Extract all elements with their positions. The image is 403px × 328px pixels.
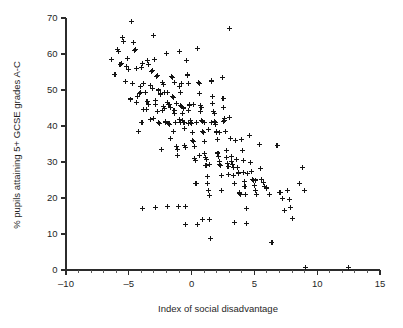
data-point-marker (165, 90, 170, 95)
data-point-marker (210, 94, 215, 99)
data-point-marker (134, 100, 139, 105)
data-point-marker (151, 116, 156, 121)
data-point-marker (177, 49, 182, 54)
data-point-marker (209, 120, 214, 125)
data-point-marker (191, 102, 196, 107)
data-point-marker (282, 208, 287, 213)
data-point-marker (130, 81, 135, 86)
data-point-marker (215, 151, 220, 156)
data-point-marker (242, 184, 247, 189)
y-axis-tick-label: 70 (47, 12, 58, 23)
data-point-marker (132, 48, 137, 53)
data-point-marker (172, 80, 177, 85)
data-point-marker (124, 64, 129, 69)
data-point-marker (244, 206, 249, 211)
data-point-marker (227, 26, 232, 31)
data-point-marker (269, 240, 274, 245)
y-axis-tick-label: 40 (47, 120, 58, 131)
data-point-marker (257, 142, 262, 147)
data-point-marker (109, 57, 114, 62)
data-point-marker (209, 79, 214, 84)
data-point-marker (241, 158, 246, 163)
data-point-marker (236, 170, 241, 175)
x-axis-tick-label: –10 (58, 278, 74, 289)
data-point-marker (252, 183, 257, 188)
data-point-marker (172, 108, 177, 113)
data-point-marker (200, 129, 205, 134)
data-point-marker (164, 51, 169, 56)
data-point-marker (225, 161, 230, 166)
x-axis-tick-label: 5 (252, 278, 257, 289)
data-point-marker (187, 102, 192, 107)
data-point-marker (248, 160, 253, 165)
data-point-marker (233, 138, 238, 143)
data-point-marker (224, 148, 229, 153)
data-point-marker (156, 120, 161, 125)
data-point-marker (139, 120, 144, 125)
data-point-marker (182, 143, 187, 148)
data-point-marker (243, 192, 248, 197)
data-point-marker (220, 75, 225, 80)
x-axis-tick-label: 10 (312, 278, 323, 289)
data-point-marker (202, 139, 207, 144)
data-point-marker (153, 102, 158, 107)
data-point-marker (196, 80, 201, 85)
data-point-marker (226, 164, 231, 169)
data-point-marker (206, 127, 211, 132)
data-point-marker (153, 205, 158, 210)
data-point-marker (224, 155, 229, 160)
data-point-marker (175, 153, 180, 158)
data-point-marker (125, 56, 130, 61)
data-points-group (109, 19, 351, 270)
data-point-marker (212, 119, 217, 124)
data-point-marker (205, 174, 210, 179)
y-axis-tick-label: 30 (47, 156, 58, 167)
data-point-marker (227, 115, 232, 120)
data-point-marker (192, 144, 197, 149)
data-point-marker (302, 188, 307, 193)
data-point-marker (154, 74, 159, 79)
data-point-marker (138, 84, 143, 89)
x-axis-tick-label: 15 (375, 278, 386, 289)
data-point-marker (244, 221, 249, 226)
data-point-marker (155, 109, 160, 114)
data-point-marker (229, 159, 234, 164)
data-point-marker (194, 120, 199, 125)
data-point-marker (157, 121, 162, 126)
data-point-marker (207, 217, 212, 222)
data-point-marker (171, 129, 176, 134)
data-point-marker (146, 62, 151, 67)
data-point-marker (210, 101, 215, 106)
data-point-marker (275, 143, 280, 148)
data-point-marker (219, 173, 224, 178)
data-point-marker (155, 73, 160, 78)
data-point-marker (219, 188, 224, 193)
data-point-marker (197, 91, 202, 96)
data-point-marker (182, 126, 187, 131)
data-point-marker (183, 204, 188, 209)
y-axis-title: % pupils attaining 5+ GCSE grades A-C (11, 61, 22, 229)
data-point-marker (297, 181, 302, 186)
data-point-marker (202, 151, 207, 156)
data-point-marker (240, 148, 245, 153)
data-point-marker (300, 165, 305, 170)
data-point-marker (207, 193, 212, 198)
x-axis-title: Index of social disadvantage (158, 303, 278, 314)
data-point-marker (126, 67, 131, 72)
x-axis-tick-label: –5 (124, 278, 135, 289)
data-point-marker (176, 204, 181, 209)
data-point-marker (121, 39, 126, 44)
data-point-marker (206, 188, 211, 193)
data-point-marker (140, 206, 145, 211)
data-point-marker (231, 165, 236, 170)
data-point-marker (226, 172, 231, 177)
data-point-marker (190, 130, 195, 135)
data-point-marker (159, 147, 164, 152)
data-point-marker (247, 133, 252, 138)
data-point-marker (217, 159, 222, 164)
data-point-marker (165, 204, 170, 209)
data-point-marker (185, 73, 190, 78)
data-point-marker (249, 169, 254, 174)
data-point-marker (229, 154, 234, 159)
data-point-marker (230, 162, 235, 167)
